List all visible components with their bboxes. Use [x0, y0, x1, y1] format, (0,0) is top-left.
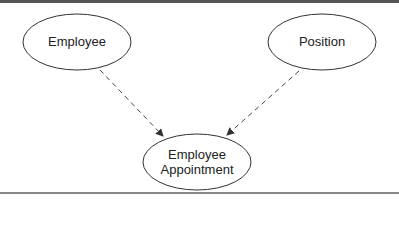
bottom-border	[0, 192, 399, 194]
edge-employee-to-appointment	[100, 70, 163, 136]
node-employee-appointment-label-line1: Employee	[147, 147, 247, 162]
node-position-label: Position	[272, 34, 372, 49]
edge-position-to-appointment	[227, 71, 299, 135]
node-employee-appointment-label-line2: Appointment	[147, 162, 247, 177]
node-employee-label: Employee	[27, 34, 127, 49]
node-employee-appointment-label: Employee Appointment	[147, 147, 247, 177]
